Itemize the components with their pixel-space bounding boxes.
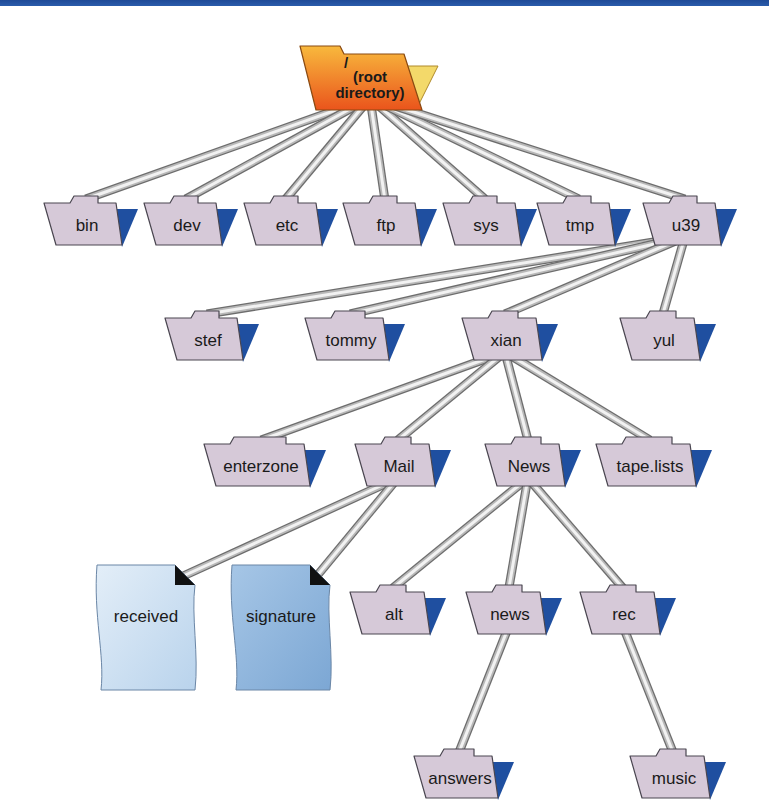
connector-root-to-u39 — [370, 98, 685, 199]
folder-ftp[interactable]: ftp — [343, 196, 437, 247]
folder-alt[interactable]: alt — [350, 585, 446, 636]
folder-label: News — [508, 457, 551, 476]
connector-root-to-dev — [186, 98, 370, 199]
folder-Mail[interactable]: Mail — [355, 437, 451, 488]
folder-label: stef — [194, 331, 222, 350]
file-signature[interactable]: signature — [231, 565, 331, 690]
file-received[interactable]: received — [96, 565, 196, 690]
connector-xian-to-Mail — [398, 352, 505, 440]
folder-label: bin — [76, 216, 99, 235]
root-label-line2: directory) — [335, 84, 404, 101]
folder-rec[interactable]: rec — [580, 585, 676, 636]
file-label: signature — [246, 607, 316, 626]
folder-tmp[interactable]: tmp — [537, 196, 631, 247]
folder-news[interactable]: news — [466, 585, 562, 636]
folder-label: xian — [490, 331, 521, 350]
folder-label: music — [652, 769, 697, 788]
folder-label: news — [490, 605, 530, 624]
folder-label: etc — [276, 216, 299, 235]
folder-etc[interactable]: etc — [244, 196, 338, 247]
tree-nodes: /(rootdirectory)bindevetcftpsystmpu39ste… — [44, 46, 737, 800]
folder-u39[interactable]: u39 — [643, 196, 737, 247]
folder-sys[interactable]: sys — [443, 196, 537, 247]
folder-bin[interactable]: bin — [44, 196, 138, 247]
folder-tommy[interactable]: tommy — [305, 311, 405, 362]
connector-xian-to-enterzone — [261, 352, 505, 440]
folder-tape-lists[interactable]: tape.lists — [596, 437, 712, 488]
folder-label: answers — [428, 769, 491, 788]
connector-news-to-answers — [459, 626, 509, 752]
folder-yul[interactable]: yul — [620, 311, 716, 362]
directory-tree-diagram: /(rootdirectory)bindevetcftpsystmpu39ste… — [0, 0, 769, 805]
connector-root-to-tmp — [370, 98, 579, 199]
folder-label: rec — [612, 605, 636, 624]
folder-enterzone[interactable]: enterzone — [204, 437, 326, 488]
folder-label: u39 — [672, 216, 700, 235]
folder-xian[interactable]: xian — [462, 311, 558, 362]
connector-Mail-to-received — [181, 478, 398, 577]
folder-label: alt — [385, 605, 403, 624]
folder-root[interactable]: /(rootdirectory) — [300, 46, 438, 110]
folder-stef[interactable]: stef — [165, 311, 259, 362]
folder-label: tape.lists — [616, 457, 683, 476]
folder-music[interactable]: music — [630, 749, 726, 800]
connector-rec-to-music — [623, 626, 673, 752]
folder-label: enterzone — [223, 457, 299, 476]
folder-label: tmp — [566, 216, 594, 235]
folder-label: dev — [173, 216, 201, 235]
folder-label: Mail — [383, 457, 414, 476]
file-label: received — [114, 607, 178, 626]
folder-News[interactable]: News — [485, 437, 581, 488]
folder-label: sys — [473, 216, 499, 235]
connector-u39-to-stef — [207, 237, 685, 314]
folder-label: tommy — [326, 331, 378, 350]
connector-u39-to-tommy — [350, 237, 685, 314]
connector-News-to-rec — [528, 478, 623, 588]
folder-dev[interactable]: dev — [144, 196, 238, 247]
folder-answers[interactable]: answers — [414, 749, 514, 800]
root-label-line1: (root — [353, 68, 387, 85]
folder-label: yul — [653, 331, 675, 350]
folder-label: ftp — [377, 216, 396, 235]
